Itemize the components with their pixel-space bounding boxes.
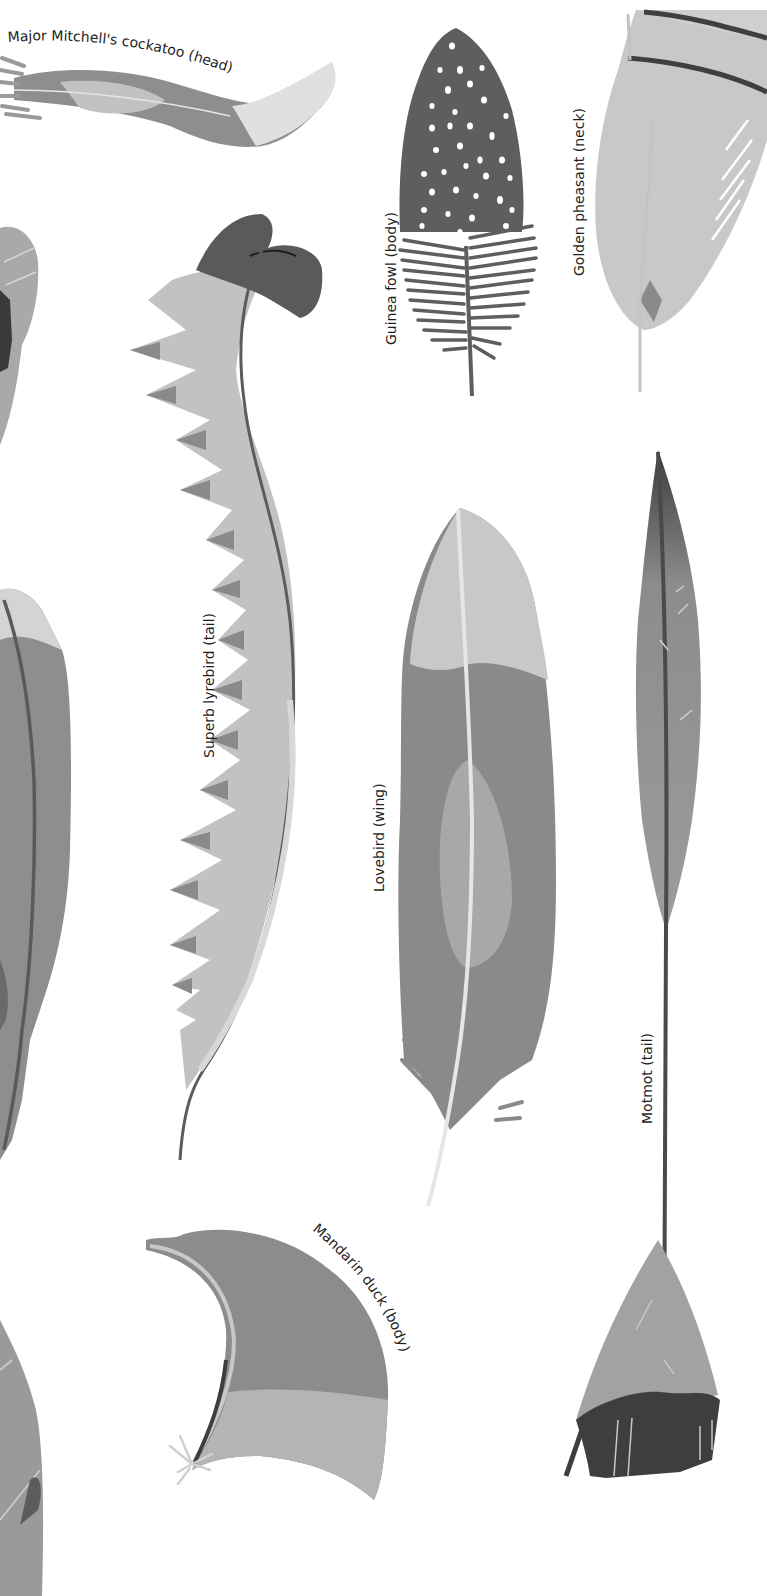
label-golden-pheasant: Golden pheasant (neck): [571, 108, 587, 276]
label-lovebird: Lovebird (wing): [371, 783, 387, 892]
partial-feather-bottom-left: [0, 1320, 43, 1596]
feather-plate: Major Mitchell's cockatoo (head): [0, 0, 767, 1596]
feather-guinea-fowl: [400, 28, 536, 396]
feather-golden-pheasant: [595, 10, 767, 392]
label-motmot: Motmot (tail): [639, 1033, 655, 1124]
partial-feather-top-left: [0, 227, 38, 445]
feather-superb-lyrebird: [130, 214, 322, 1160]
label-superb-lyrebird: Superb lyrebird (tail): [201, 613, 217, 758]
label-major-mitchells-cockatoo: Major Mitchell's cockatoo (head): [7, 27, 235, 75]
feather-lovebird: [398, 508, 556, 1206]
label-guinea-fowl: Guinea fowl (body): [383, 212, 399, 345]
feather-motmot: [566, 450, 720, 1478]
feather-major-mitchells-cockatoo: [0, 58, 336, 147]
partial-feather-mid-left: [0, 589, 71, 1160]
